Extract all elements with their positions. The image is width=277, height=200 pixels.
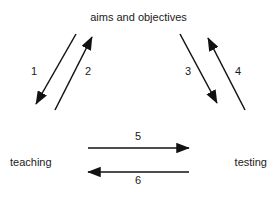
edge-label-5: 5 bbox=[131, 131, 145, 142]
edge-label-4: 4 bbox=[231, 66, 245, 77]
node-label-aims-and-objectives: aims and objectives bbox=[0, 12, 277, 23]
arrow-layer bbox=[0, 0, 277, 200]
edge-arrow-1 bbox=[36, 34, 76, 104]
diagram-canvas: aims and objectives teaching testing 1 2… bbox=[0, 0, 277, 200]
edge-label-1: 1 bbox=[27, 66, 41, 77]
node-label-teaching: teaching bbox=[10, 157, 52, 168]
edge-label-2: 2 bbox=[81, 66, 95, 77]
node-label-testing: testing bbox=[235, 157, 267, 168]
edge-label-6: 6 bbox=[131, 175, 145, 186]
edge-label-3: 3 bbox=[181, 66, 195, 77]
